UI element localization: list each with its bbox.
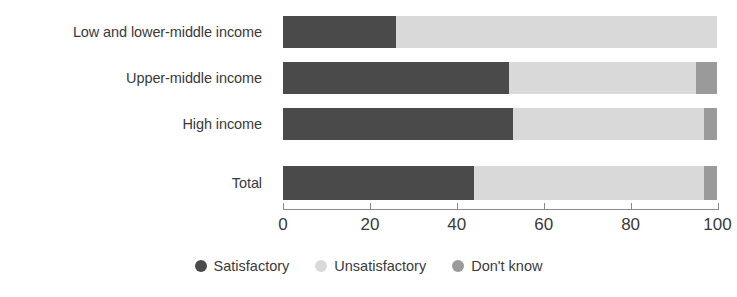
category-label-high-income: High income bbox=[0, 117, 262, 132]
bar-segment bbox=[704, 166, 717, 200]
bar-segment bbox=[513, 108, 704, 140]
bar-segment bbox=[509, 62, 696, 94]
legend-item[interactable]: Unsatisfactory bbox=[315, 258, 426, 274]
legend-item[interactable]: Don't know bbox=[452, 258, 542, 274]
x-axis-tick-label: 20 bbox=[360, 215, 379, 235]
bar-segment bbox=[283, 62, 509, 94]
legend-label: Don't know bbox=[471, 258, 542, 274]
x-axis-line bbox=[283, 209, 718, 210]
x-axis-tick bbox=[631, 203, 632, 210]
x-axis-tick-label: 100 bbox=[703, 215, 731, 235]
plot-area bbox=[283, 0, 717, 297]
bar-row bbox=[283, 166, 717, 200]
legend-item[interactable]: Satisfactory bbox=[195, 258, 290, 274]
bar-segment bbox=[283, 108, 513, 140]
bar-segment bbox=[283, 166, 474, 200]
chart-legend: SatisfactoryUnsatisfactoryDon't know bbox=[0, 258, 737, 274]
legend-label: Unsatisfactory bbox=[334, 258, 426, 274]
x-axis-tick bbox=[370, 203, 371, 210]
bar-row bbox=[283, 108, 717, 140]
stacked-bar-chart: Low and lower-middle income Upper-middle… bbox=[0, 0, 737, 297]
bar-row bbox=[283, 62, 717, 94]
bar-row bbox=[283, 16, 717, 48]
category-label-total: Total bbox=[0, 176, 262, 191]
bar-segment bbox=[474, 166, 704, 200]
x-axis-tick-label: 60 bbox=[534, 215, 553, 235]
legend-swatch-icon bbox=[315, 260, 327, 272]
bar-segment bbox=[696, 62, 718, 94]
x-axis-tick bbox=[457, 203, 458, 210]
x-axis-tick-label: 40 bbox=[447, 215, 466, 235]
x-axis-tick bbox=[283, 203, 284, 210]
legend-swatch-icon bbox=[195, 260, 207, 272]
x-axis-tick bbox=[718, 203, 719, 210]
legend-swatch-icon bbox=[452, 260, 464, 272]
bar-segment bbox=[396, 16, 718, 48]
category-label-upper-middle-income: Upper-middle income bbox=[0, 71, 262, 86]
legend-label: Satisfactory bbox=[214, 258, 290, 274]
x-axis-tick bbox=[544, 203, 545, 210]
x-axis-tick-label: 80 bbox=[621, 215, 640, 235]
category-axis: Low and lower-middle income Upper-middle… bbox=[0, 0, 262, 297]
bar-segment bbox=[283, 16, 396, 48]
category-label-low-and-lower-middle-income: Low and lower-middle income bbox=[0, 25, 262, 40]
x-axis-tick-label: 0 bbox=[278, 215, 287, 235]
bar-segment bbox=[704, 108, 717, 140]
